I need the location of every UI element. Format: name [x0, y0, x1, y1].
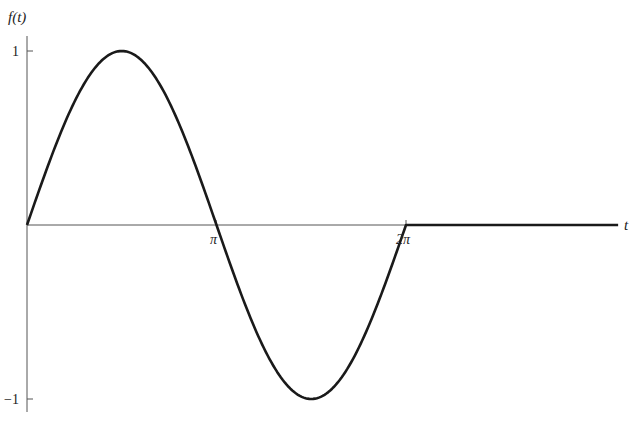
x-tick-label-2pi: 2π [396, 232, 411, 247]
y-axis-label: f(t) [8, 9, 26, 26]
x-axis-label: t [624, 217, 629, 233]
chart-canvas: f(t) t 1 −1 π 2π [0, 0, 632, 422]
x-tick-label-pi: π [210, 232, 218, 247]
y-tick-label-1: 1 [12, 44, 19, 59]
y-tick-label-neg1: −1 [4, 392, 19, 407]
